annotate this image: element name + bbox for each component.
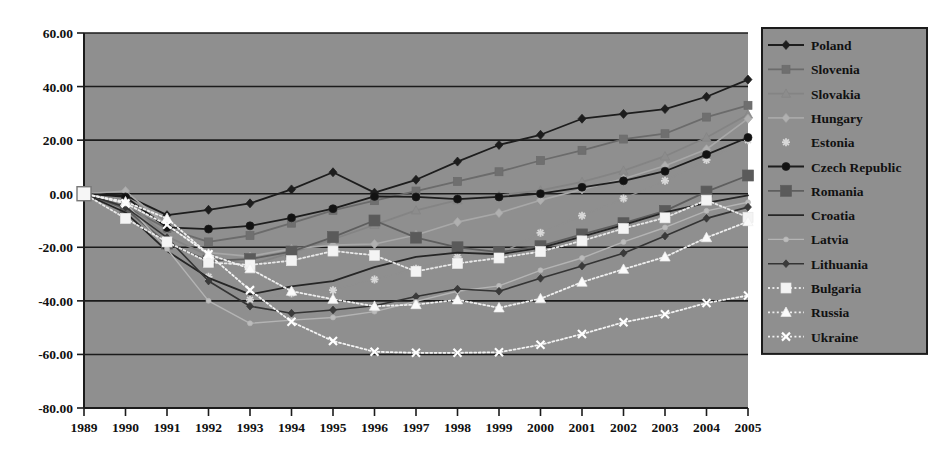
data-point	[495, 193, 503, 201]
legend-marker-circle-small	[784, 237, 789, 242]
data-point	[369, 215, 380, 226]
data-point	[205, 225, 213, 233]
data-point	[537, 190, 545, 198]
x-tick-label: 1998	[444, 420, 471, 435]
data-point	[412, 193, 420, 201]
x-tick-label: 2005	[735, 420, 762, 435]
x-tick-label: 1989	[71, 420, 98, 435]
y-axis-ticks: 60.0040.0020.000.00-20.00-40.00-60.00-80…	[38, 26, 84, 416]
data-point	[704, 208, 709, 213]
legend-label: Ukraine	[811, 330, 858, 345]
data-point	[331, 315, 336, 320]
legend-label: Latvia	[811, 232, 849, 247]
data-point	[536, 247, 546, 257]
data-point	[620, 195, 628, 203]
x-tick-label: 1995	[320, 420, 347, 435]
data-point	[578, 183, 586, 191]
data-point	[454, 195, 462, 203]
data-point	[744, 133, 752, 141]
data-point	[370, 250, 380, 260]
y-tick-label: -60.00	[38, 347, 73, 362]
data-point	[248, 321, 253, 326]
data-point	[494, 253, 504, 263]
x-tick-label: 1999	[486, 420, 513, 435]
legend-marker-square	[782, 65, 790, 73]
y-tick-label: -20.00	[38, 240, 73, 255]
x-axis-ticks: 1989199019911992199319941995199619971998…	[71, 408, 762, 435]
data-point	[411, 266, 421, 276]
data-point	[663, 225, 668, 230]
x-tick-label: 2001	[569, 420, 596, 435]
x-tick-label: 1994	[278, 420, 305, 435]
legend-label: Russia	[811, 305, 850, 320]
x-tick-label: 1991	[154, 420, 181, 435]
x-tick-label: 1997	[403, 420, 430, 435]
legend-marker-square	[781, 185, 792, 196]
legend-label: Romania	[811, 184, 864, 199]
data-point	[621, 239, 626, 244]
data-point	[577, 236, 587, 246]
data-point	[702, 195, 712, 205]
data-point	[205, 238, 213, 246]
legend-label: Estonia	[811, 135, 855, 150]
x-tick-label: 1992	[195, 420, 222, 435]
data-point	[246, 232, 254, 240]
data-point	[329, 205, 337, 213]
data-point	[661, 177, 669, 185]
legend-label: Hungary	[811, 111, 863, 126]
legend-item-romania[interactable]: Romania	[768, 184, 864, 199]
y-tick-label: 0.00	[49, 187, 73, 202]
data-point	[580, 256, 585, 261]
y-tick-label: -80.00	[38, 401, 73, 416]
line-chart-canvas: 60.0040.0020.000.00-20.00-40.00-60.00-80…	[0, 0, 935, 450]
legend-label: Slovenia	[811, 62, 860, 77]
data-point	[288, 214, 296, 222]
y-tick-label: 20.00	[43, 133, 74, 148]
data-point	[661, 130, 669, 138]
data-point	[660, 213, 670, 223]
x-tick-label: 2003	[652, 420, 679, 435]
legend-marker-circle	[782, 163, 790, 171]
data-point	[453, 258, 463, 268]
data-point	[703, 113, 711, 121]
data-point	[703, 151, 711, 159]
data-point	[328, 246, 338, 256]
data-point	[121, 213, 131, 223]
legend-marker-square	[781, 283, 791, 293]
data-point	[578, 146, 586, 154]
data-point	[578, 212, 586, 220]
legend-label: Bulgaria	[811, 281, 862, 296]
data-point	[287, 256, 297, 266]
data-point	[204, 257, 214, 267]
legend: PolandSloveniaSlovakiaHungaryEstoniaCzec…	[762, 28, 927, 354]
x-tick-label: 1993	[237, 420, 264, 435]
data-point	[661, 167, 669, 175]
legend-label: Lithuania	[811, 257, 868, 272]
data-point	[538, 268, 543, 273]
data-point	[454, 177, 462, 185]
origin-marker	[77, 187, 91, 201]
data-point	[620, 177, 628, 185]
x-tick-label: 1990	[112, 420, 139, 435]
y-tick-label: 40.00	[43, 80, 74, 95]
legend-label: Croatia	[811, 208, 855, 223]
data-point	[411, 232, 422, 243]
legend-label: Czech Republic	[811, 160, 901, 175]
data-point	[537, 229, 545, 237]
data-point	[619, 224, 629, 234]
chart-figure: 60.0040.0020.000.00-20.00-40.00-60.00-80…	[0, 0, 935, 450]
data-point	[371, 275, 379, 283]
data-point	[328, 232, 339, 243]
data-point	[329, 286, 337, 294]
data-point	[452, 242, 463, 253]
legend-label: Poland	[811, 38, 852, 53]
x-tick-label: 2002	[610, 420, 637, 435]
legend-marker-asterisk	[782, 138, 790, 146]
data-point	[246, 222, 254, 230]
data-point	[743, 170, 754, 181]
data-point	[495, 168, 503, 176]
x-tick-label: 2000	[527, 420, 554, 435]
x-tick-label: 2004	[693, 420, 720, 435]
data-point	[537, 157, 545, 165]
data-point	[744, 101, 752, 109]
